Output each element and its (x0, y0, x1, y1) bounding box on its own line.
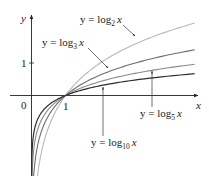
x-axis-label: x (195, 99, 201, 111)
annotation-log3: y = log3x (42, 36, 108, 68)
x-tick-label-1: 1 (63, 100, 69, 112)
y-tick-label-1: 1 (21, 57, 27, 69)
svg-text:y = log3x: y = log3x (42, 36, 84, 51)
svg-text:y = log5x: y = log5x (140, 107, 182, 122)
log-functions-chart: y x 1 0 1 y = log2x y = log3x y = log5x … (0, 0, 209, 185)
arrow-log2 (123, 25, 135, 36)
annotation-log2: y = log2x (80, 13, 135, 36)
origin-label: 0 (21, 99, 27, 111)
svg-text:y = log10x: y = log10x (91, 136, 137, 151)
svg-text:y = log2x: y = log2x (80, 13, 122, 28)
axes: y x 1 0 1 (10, 12, 201, 176)
y-axis-label: y (20, 12, 26, 24)
annotation-log10: y = log10x (91, 87, 137, 151)
curve-log10 (32, 74, 195, 176)
